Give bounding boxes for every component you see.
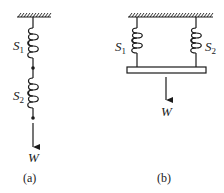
spring-s2-a xyxy=(28,78,39,108)
spring-label-s1-a: S1 xyxy=(13,38,24,55)
spring-systems-diagram: S1 S2 W (a) xyxy=(0,0,224,193)
spring-s1-b xyxy=(132,28,143,53)
spring-s2-b xyxy=(191,28,202,53)
panel-a: S1 S2 W (a) xyxy=(13,13,51,185)
spring-label-s2-b: S2 xyxy=(205,39,216,56)
caption-b: (b) xyxy=(157,171,171,185)
load-label-a: W xyxy=(28,150,40,165)
ceiling-support-a xyxy=(17,13,51,17)
caption-a: (a) xyxy=(23,171,36,185)
ceiling-support-b xyxy=(128,13,213,17)
load-label-b: W xyxy=(161,104,173,119)
load-plate xyxy=(127,67,206,73)
spring-s1-a xyxy=(28,28,39,58)
joint-dot xyxy=(31,116,35,120)
spring-label-s2-a: S2 xyxy=(13,88,24,105)
spring-label-s1-b: S1 xyxy=(115,39,126,56)
panel-b: S1 S2 W (b) xyxy=(115,13,216,185)
